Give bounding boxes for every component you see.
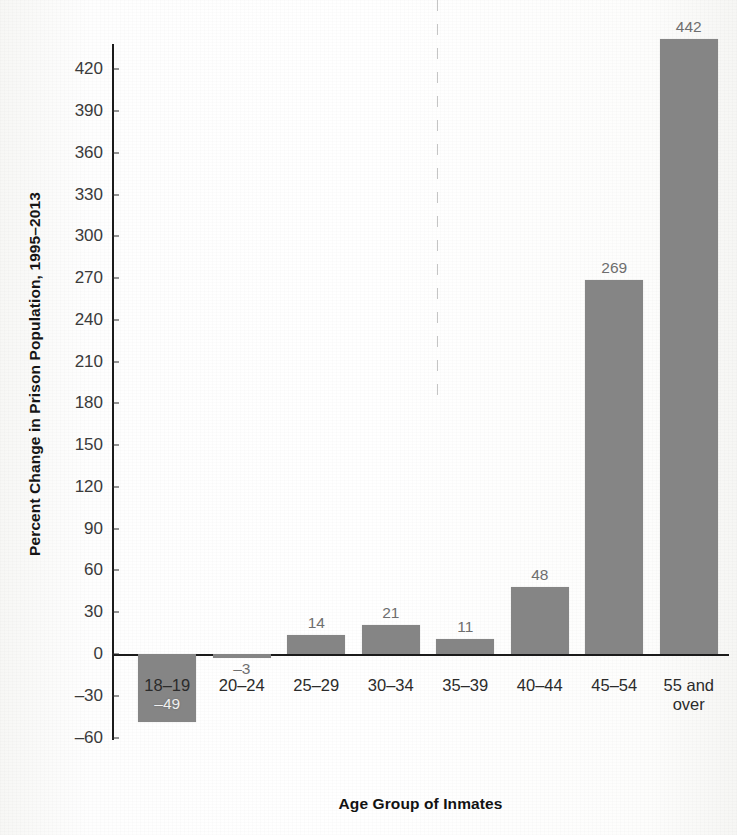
y-axis-tick-label: 360 <box>47 143 103 163</box>
y-axis-tick-mark <box>112 445 119 446</box>
x-axis-tick-label: 35–39 <box>428 676 503 695</box>
bar-slot[interactable]: 1425–29 <box>279 44 354 740</box>
bar-value-label: 14 <box>279 614 354 632</box>
y-axis-tick-mark <box>112 612 119 613</box>
x-axis-tick-label: 30–34 <box>354 676 429 695</box>
bar[interactable] <box>511 587 569 654</box>
y-axis-tick-mark <box>112 69 119 70</box>
y-axis-tick-label: 180 <box>47 393 103 413</box>
x-axis-title: Age Group of Inmates <box>112 795 729 813</box>
bar-slot[interactable]: 2130–34 <box>354 44 429 740</box>
y-axis-tick-mark <box>112 528 119 529</box>
chart-page: Percent Change in Prison Population, 199… <box>0 0 737 835</box>
bar-slot[interactable]: 4840–44 <box>503 44 578 740</box>
bar[interactable] <box>585 280 643 654</box>
bar-value-label: 269 <box>577 259 652 277</box>
bar-value-label: –49 <box>130 695 205 713</box>
bar-group: –4918–19–320–241425–292130–341135–394840… <box>130 44 726 740</box>
bar[interactable] <box>287 635 345 654</box>
bar-slot[interactable]: 1135–39 <box>428 44 503 740</box>
x-axis-tick-label: 40–44 <box>503 676 578 695</box>
y-axis-tick-mark <box>112 361 119 362</box>
bar[interactable] <box>660 39 718 654</box>
y-axis-tick-mark <box>112 278 119 279</box>
bar-value-label: 48 <box>503 566 578 584</box>
bar-slot[interactable]: –4918–19 <box>130 44 205 740</box>
y-axis-tick-label: 210 <box>47 352 103 372</box>
y-axis-tick-label: 270 <box>47 268 103 288</box>
x-axis-tick-label: 25–29 <box>279 676 354 695</box>
y-axis-tick-mark <box>112 654 119 655</box>
y-axis-tick-label: 420 <box>47 59 103 79</box>
y-axis-tick-label: 300 <box>47 226 103 246</box>
y-axis-tick-label: 0 <box>47 644 103 664</box>
y-axis-tick-mark <box>112 403 119 404</box>
y-axis-tick-label: 90 <box>47 519 103 539</box>
x-axis-tick-label: 45–54 <box>577 676 652 695</box>
y-axis-tick-mark <box>112 236 119 237</box>
x-axis-tick-label: 55 and over <box>652 676 727 714</box>
y-axis-tick-label: 330 <box>47 185 103 205</box>
bar-slot[interactable]: –320–24 <box>205 44 280 740</box>
y-axis-tick-label: 30 <box>47 602 103 622</box>
y-axis-tick-mark <box>112 486 119 487</box>
bar[interactable] <box>362 625 420 654</box>
y-axis-tick-mark <box>112 570 119 571</box>
y-axis-tick-label: –30 <box>47 686 103 706</box>
y-axis-line <box>112 44 114 740</box>
y-axis-tick-mark <box>112 111 119 112</box>
y-axis-tick-mark <box>112 737 119 738</box>
x-axis-tick-label: 20–24 <box>205 676 280 695</box>
y-axis-tick-label: 60 <box>47 560 103 580</box>
y-axis-tick-label: 120 <box>47 477 103 497</box>
y-axis-tick-mark <box>112 152 119 153</box>
y-axis-tick-label: 390 <box>47 101 103 121</box>
plot-area: 4203903603303002702402101801501209060300… <box>112 44 729 740</box>
bar-slot[interactable]: 26945–54 <box>577 44 652 740</box>
y-axis-tick-label: 150 <box>47 435 103 455</box>
y-axis-tick-label: –60 <box>47 728 103 748</box>
bar[interactable] <box>436 639 494 654</box>
bar-value-label: 21 <box>354 604 429 622</box>
y-axis-tick-mark <box>112 695 119 696</box>
y-axis-tick-mark <box>112 319 119 320</box>
bar[interactable] <box>213 654 271 658</box>
x-axis-tick-label: 18–19 <box>130 676 205 695</box>
y-axis-tick-mark <box>112 194 119 195</box>
y-axis-tick-label: 240 <box>47 310 103 330</box>
bar-slot[interactable]: 44255 and over <box>652 44 727 740</box>
bar-value-label: 11 <box>428 618 503 636</box>
bar-value-label: 442 <box>652 18 727 36</box>
